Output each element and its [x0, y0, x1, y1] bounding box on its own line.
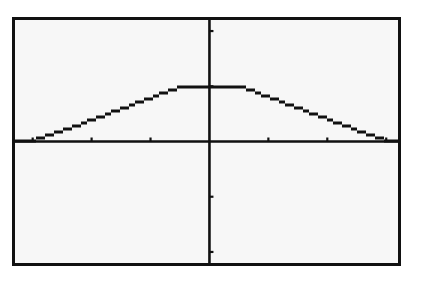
axes	[15, 20, 398, 263]
graph-plot	[0, 0, 423, 286]
function-curve	[15, 87, 398, 141]
